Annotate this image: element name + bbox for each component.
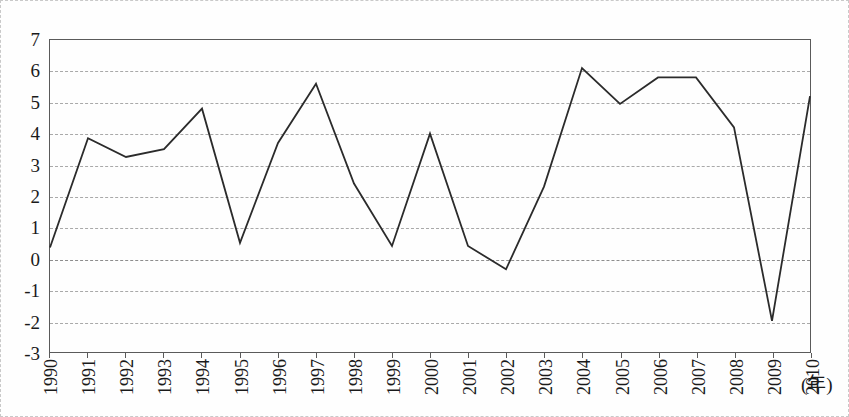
- x-axis-tick-label: 2005: [614, 359, 632, 395]
- x-axis-tick-label: 1992: [118, 359, 136, 395]
- x-axis-tick-label: 1998: [347, 359, 365, 395]
- plot-area: [49, 39, 811, 353]
- x-axis-tick-label: 1997: [309, 359, 327, 395]
- x-axis: 1990199119921993199419951996199719981999…: [1, 353, 849, 417]
- x-axis-tickmark: [240, 353, 241, 358]
- x-axis-tick-label: 1995: [233, 359, 251, 395]
- x-axis-tickmark: [278, 353, 279, 358]
- x-axis-tick-label: 2004: [575, 359, 593, 395]
- x-axis-tickmark: [392, 353, 393, 358]
- x-axis-tickmark: [697, 353, 698, 358]
- y-axis-tick-label: 7: [31, 30, 41, 49]
- y-axis-tick-label: 5: [31, 92, 41, 111]
- x-axis-tick-label: 2008: [728, 359, 746, 395]
- x-axis-tick-label: 2002: [499, 359, 517, 395]
- x-axis-tickmark: [354, 353, 355, 358]
- x-axis-tickmark: [582, 353, 583, 358]
- x-axis-tick-label: 2001: [461, 359, 479, 395]
- x-axis-tick-label: 2003: [537, 359, 555, 395]
- x-axis-tickmark: [163, 353, 164, 358]
- series-line: [50, 40, 810, 352]
- y-axis-tick-label: 1: [31, 218, 41, 237]
- y-axis-tick-label: -1: [24, 281, 40, 300]
- x-axis-tickmark: [773, 353, 774, 358]
- x-axis-tick-label: 1996: [271, 359, 289, 395]
- x-axis-tick-label: 1994: [194, 359, 212, 395]
- y-axis-tick-label: 4: [31, 124, 41, 143]
- x-axis-tickmark: [201, 353, 202, 358]
- x-axis-tickmark: [316, 353, 317, 358]
- x-axis-tick-label: 2006: [652, 359, 670, 395]
- x-axis-tickmark: [544, 353, 545, 358]
- x-axis-tick-label: 1991: [80, 359, 98, 395]
- x-axis-tick-label: 2007: [690, 359, 708, 395]
- y-axis-tick-label: -2: [24, 312, 40, 331]
- y-axis-tick-label: 6: [31, 61, 41, 80]
- y-axis-tick-label: 0: [31, 249, 41, 268]
- x-axis-tick-label: 1993: [156, 359, 174, 395]
- y-axis-tick-label: 2: [31, 187, 41, 206]
- x-axis-tickmark: [87, 353, 88, 358]
- x-axis-tickmark: [49, 353, 50, 358]
- x-axis-tickmark: [125, 353, 126, 358]
- x-axis-tickmark: [430, 353, 431, 358]
- x-axis-tick-label: 1999: [385, 359, 403, 395]
- x-axis-tickmark: [659, 353, 660, 358]
- x-axis-tick-label: 2009: [766, 359, 784, 395]
- x-axis-tickmark: [468, 353, 469, 358]
- line-chart-figure: 76543210-1-2-3 1990199119921993199419951…: [0, 0, 849, 417]
- x-axis-unit-label: (年): [801, 375, 833, 394]
- x-axis-tickmark: [621, 353, 622, 358]
- series-polyline: [50, 68, 810, 321]
- x-axis-tick-label: 2000: [423, 359, 441, 395]
- y-axis-tick-label: 3: [31, 155, 41, 174]
- x-axis-tickmark: [735, 353, 736, 358]
- x-axis-tick-label: 1990: [42, 359, 60, 395]
- x-axis-tickmark: [811, 353, 812, 358]
- x-axis-tickmark: [506, 353, 507, 358]
